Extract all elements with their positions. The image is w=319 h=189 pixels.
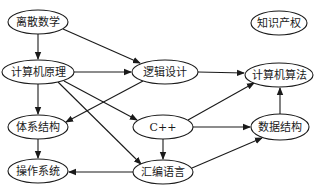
node-label: 数据结构	[258, 120, 302, 134]
node-label: 离散数学	[16, 15, 60, 29]
course-dependency-diagram: 离散数学计算机原理逻辑设计体系结构C++操作系统汇编语言知识产权计算机算法数据结…	[0, 0, 319, 189]
node-label: 计算机原理	[11, 65, 66, 79]
node-tixi: 体系结构	[8, 115, 68, 139]
node-huibian: 汇编语言	[133, 160, 193, 184]
edge-luoji-to-suanfa	[198, 72, 244, 73]
edge-yuanli-to-cpp	[64, 81, 137, 120]
node-label: 操作系统	[16, 164, 60, 178]
node-zhishi: 知识产权	[251, 11, 307, 35]
arrow-line	[64, 81, 137, 120]
node-label: 逻辑设计	[143, 65, 187, 79]
node-caozuo: 操作系统	[8, 159, 68, 183]
edge-lisan-to-luoji	[63, 29, 140, 63]
edge-huibian-to-shuju	[192, 138, 262, 168]
node-luoji: 逻辑设计	[132, 60, 198, 84]
edge-cpp-to-suanfa	[188, 83, 254, 120]
diagram-canvas: 离散数学计算机原理逻辑设计体系结构C++操作系统汇编语言知识产权计算机算法数据结…	[0, 0, 319, 189]
node-label: C++	[150, 121, 177, 134]
arrow-line	[192, 138, 262, 168]
node-yuanli: 计算机原理	[2, 60, 74, 84]
edges-layer	[38, 29, 280, 172]
arrow-line	[58, 82, 141, 164]
nodes-layer: 离散数学计算机原理逻辑设计体系结构C++操作系统汇编语言知识产权计算机算法数据结…	[2, 10, 313, 184]
node-suanfa: 计算机算法	[245, 63, 313, 87]
arrow-line	[188, 83, 254, 120]
edge-yuanli-to-huibian	[58, 82, 141, 164]
arrow-line	[63, 29, 140, 63]
node-label: 体系结构	[16, 120, 60, 134]
node-cpp: C++	[133, 115, 193, 139]
node-label: 计算机算法	[252, 68, 307, 82]
node-label: 知识产权	[257, 16, 301, 30]
node-lisan: 离散数学	[8, 10, 68, 34]
node-shuju: 数据结构	[251, 114, 309, 140]
arrow-line	[198, 72, 244, 73]
node-label: 汇编语言	[141, 165, 185, 179]
